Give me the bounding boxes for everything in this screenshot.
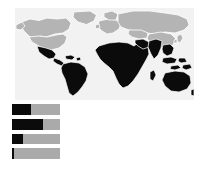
figure-root: World map with highlighted regions and p… [0,0,203,179]
bar-row: 40 [12,104,60,115]
proportion-bar-chart: 40 65 23 4 [12,104,72,164]
bar-fill [12,119,43,130]
world-map-svg [15,8,194,100]
bar-fill [12,134,23,144]
bar-row: 23 [12,134,60,144]
bar-row: 4 [12,148,60,159]
bar-fill [12,148,14,159]
world-map-panel [15,8,194,100]
bar-fill [12,104,31,115]
bar-row: 65 [12,119,60,130]
